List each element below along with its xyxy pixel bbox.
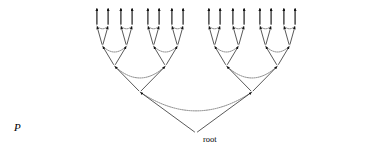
tree-edge-group: [97, 9, 295, 133]
tree-edge: [121, 27, 126, 45]
tree-diagram-figure: P root: [0, 0, 392, 153]
tree-edge: [209, 27, 214, 45]
tree-edge: [154, 47, 165, 65]
sibling-arc: [115, 66, 166, 78]
tree-edge: [260, 27, 265, 45]
tree-edge: [284, 27, 289, 45]
sibling-arc: [266, 46, 290, 52]
sibling-arc: [209, 26, 220, 29]
sibling-arc: [121, 26, 132, 29]
tree-edge: [227, 47, 238, 65]
sibling-arc: [215, 46, 239, 52]
tree-edge: [166, 47, 177, 65]
tree-edge: [278, 47, 289, 65]
tree-edge: [127, 27, 132, 45]
tree-edge: [233, 27, 238, 45]
sibling-arc: [97, 26, 108, 29]
sibling-arc: [227, 66, 278, 78]
tree-edge: [266, 47, 277, 65]
tree-edge: [227, 66, 251, 91]
sibling-arc-group: [97, 8, 295, 111]
tree-edge: [172, 27, 177, 45]
sibling-arc: [260, 26, 271, 29]
tree-edge: [290, 27, 295, 45]
tree-edge: [266, 27, 271, 45]
sibling-arc: [154, 46, 178, 52]
binary-tree-svg: [0, 0, 392, 153]
tree-edge: [115, 66, 139, 91]
tree-edge: [103, 27, 108, 45]
tree-edge: [97, 27, 102, 45]
tree-edge: [178, 27, 183, 45]
tree-edge: [154, 27, 159, 45]
tree-edge: [215, 27, 220, 45]
tree-edge: [215, 47, 226, 65]
sibling-arc: [148, 26, 159, 29]
tree-edge: [103, 47, 114, 65]
sibling-arc: [140, 92, 252, 111]
tree-edge: [141, 66, 165, 91]
tree-edge: [197, 92, 251, 132]
tree-edge: [115, 47, 126, 65]
sibling-arc: [233, 26, 244, 29]
sibling-arc: [284, 26, 295, 29]
tree-edge: [239, 27, 244, 45]
tree-edge: [140, 92, 194, 132]
sibling-arc: [172, 26, 183, 29]
tree-edge: [148, 27, 153, 45]
tree-edge: [253, 66, 277, 91]
sibling-arc: [103, 46, 127, 52]
